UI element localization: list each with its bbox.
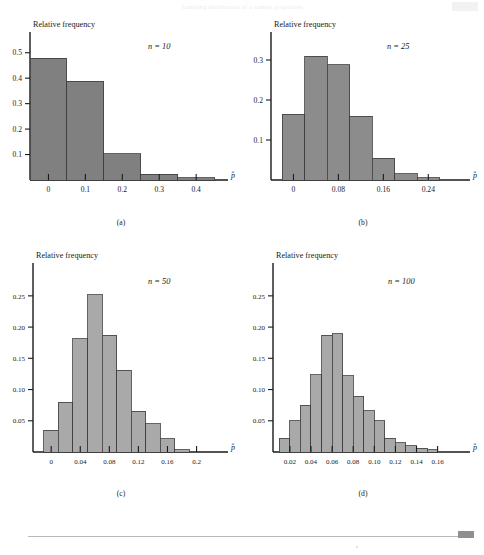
x-tick-label: 0.08 xyxy=(103,458,116,466)
y-tick-label: 0.2 xyxy=(254,96,264,105)
figure-sampling-distributions: Relative frequency 0.10.20.30.40.5 00.10… xyxy=(0,12,484,512)
y-tick-label: 0.10 xyxy=(13,386,26,394)
histogram-bar xyxy=(305,56,327,180)
x-tick-label: 0.02 xyxy=(284,458,297,466)
histogram-bar xyxy=(146,424,161,452)
histogram-bar xyxy=(30,58,67,180)
running-head-text: Sampling distribution of a sample propor… xyxy=(181,4,302,10)
panel-b-svg: Relative frequency 0.10.20.3 00.080.160.… xyxy=(242,12,484,217)
y-tick-label: 0.15 xyxy=(13,355,26,363)
panel-d-x-axis-symbol: p̂ xyxy=(472,443,477,452)
histogram-bar xyxy=(353,396,364,452)
panel-d-y-axis-title: Relative frequency xyxy=(276,251,339,260)
histogram-bar xyxy=(102,335,117,452)
panel-d: Relative frequency 0.050.100.150.200.25 … xyxy=(242,240,484,512)
y-tick-label: 0.10 xyxy=(253,386,266,394)
x-tick-label: 0.12 xyxy=(389,458,402,466)
panel-c-bars xyxy=(44,295,189,452)
panel-a-y-axis-title: Relative frequency xyxy=(33,20,96,29)
panel-c-plot: Relative frequency 0.050.100.150.200.25 … xyxy=(0,240,242,512)
histogram-bar xyxy=(88,295,103,452)
y-tick-label: 0.5 xyxy=(13,48,23,57)
x-tick-label: 0.06 xyxy=(326,458,339,466)
panel-a-caption: (a) xyxy=(0,218,242,227)
y-tick-label: 0.15 xyxy=(253,355,266,363)
x-tick-label: 0.12 xyxy=(132,458,145,466)
histogram-bar xyxy=(58,402,73,452)
histogram-bar xyxy=(395,174,417,180)
panel-a-svg: Relative frequency 0.10.20.30.40.5 00.10… xyxy=(0,12,242,217)
x-tick-label: 0 xyxy=(49,458,53,466)
panel-c-svg: Relative frequency 0.050.100.150.200.25 … xyxy=(0,240,242,488)
panel-b: Relative frequency 0.10.20.3 00.080.160.… xyxy=(242,12,484,240)
panel-d-svg: Relative frequency 0.050.100.150.200.25 … xyxy=(242,240,484,488)
y-tick-label: 0.25 xyxy=(253,293,266,301)
footer-dot xyxy=(356,546,358,548)
y-tick-label: 0.1 xyxy=(254,136,264,145)
x-tick-label: 0.1 xyxy=(81,185,91,194)
histogram-bar xyxy=(117,370,132,452)
x-tick-label: 0 xyxy=(292,185,296,194)
x-tick-label: 0.10 xyxy=(368,458,381,466)
x-tick-label: 0.14 xyxy=(410,458,423,466)
panel-c-n-label: n = 50 xyxy=(148,277,171,286)
histogram-bar xyxy=(385,438,396,452)
panel-b-bars xyxy=(282,56,439,180)
panel-d-plot: Relative frequency 0.050.100.150.200.25 … xyxy=(242,240,484,512)
histogram-bar xyxy=(282,114,304,180)
x-tick-label: 0.24 xyxy=(422,185,435,194)
histogram-bar xyxy=(343,376,354,452)
x-tick-label: 0.08 xyxy=(347,458,360,466)
histogram-bar xyxy=(300,405,311,452)
histogram-bar xyxy=(364,411,375,452)
x-tick-label: 0.16 xyxy=(431,458,444,466)
y-tick-label: 0.2 xyxy=(13,125,23,134)
panel-a-x-axis-symbol: p̂ xyxy=(230,171,235,180)
panel-d-bars xyxy=(279,334,437,452)
histogram-bar xyxy=(332,334,343,452)
histogram-bar xyxy=(73,339,88,452)
x-tick-label: 0.3 xyxy=(154,185,164,194)
y-tick-label: 0.05 xyxy=(253,417,266,425)
x-tick-label: 0.2 xyxy=(192,458,201,466)
histogram-bar xyxy=(417,448,428,452)
histogram-bar xyxy=(67,81,104,180)
x-tick-label: 0.16 xyxy=(377,185,390,194)
y-tick-label: 0.20 xyxy=(253,324,266,332)
panel-b-caption: (b) xyxy=(242,218,484,227)
histogram-bar xyxy=(406,446,417,452)
panel-c: Relative frequency 0.050.100.150.200.25 … xyxy=(0,240,242,512)
histogram-bar xyxy=(374,421,385,452)
histogram-bar xyxy=(175,450,190,452)
panel-c-y-axis-title: Relative frequency xyxy=(36,251,99,260)
x-tick-label: 0.04 xyxy=(305,458,318,466)
y-tick-label: 0.20 xyxy=(13,324,26,332)
histogram-bar xyxy=(311,375,322,452)
x-tick-label: 0.08 xyxy=(332,185,345,194)
y-tick-label: 0.1 xyxy=(13,150,23,159)
y-tick-label: 0.4 xyxy=(13,74,23,83)
histogram-bar xyxy=(290,421,301,452)
x-tick-label: 0 xyxy=(47,185,51,194)
panel-c-caption: (c) xyxy=(0,489,242,498)
panel-c-y-ticks: 0.050.100.150.200.25 xyxy=(13,293,33,426)
panel-a-y-ticks: 0.10.20.30.40.5 xyxy=(13,48,31,159)
histogram-bar xyxy=(350,116,372,180)
y-tick-label: 0.3 xyxy=(254,56,264,65)
histogram-bar xyxy=(427,450,438,452)
panel-b-plot: Relative frequency 0.10.20.3 00.080.160.… xyxy=(242,12,484,240)
panel-d-y-ticks: 0.050.100.150.200.25 xyxy=(253,293,273,426)
y-tick-label: 0.3 xyxy=(13,99,23,108)
footer-marker xyxy=(458,531,474,538)
histogram-bar xyxy=(279,438,290,452)
x-tick-label: 0.2 xyxy=(118,185,128,194)
panel-b-y-ticks: 0.10.20.3 xyxy=(254,56,272,145)
x-tick-label: 0.4 xyxy=(191,185,201,194)
y-tick-label: 0.25 xyxy=(13,293,26,301)
panel-a-bars xyxy=(30,58,215,180)
panel-b-n-label: n = 25 xyxy=(387,42,409,51)
panel-a-n-label: n = 10 xyxy=(148,42,171,51)
histogram-bar xyxy=(395,443,406,452)
histogram-bar xyxy=(327,65,349,180)
x-tick-label: 0.16 xyxy=(161,458,174,466)
